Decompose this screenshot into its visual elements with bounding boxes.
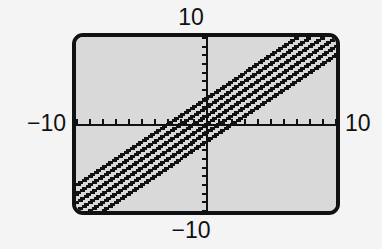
axis-label-right: 10 (345, 112, 382, 135)
plot-canvas (76, 37, 336, 211)
axis-label-left: −10 (14, 112, 66, 135)
calculator-screen (72, 33, 340, 215)
graph-figure: 10 −10 10 −10 (0, 0, 382, 249)
axis-label-top: 10 (0, 6, 382, 29)
axis-label-bottom: −10 (0, 219, 382, 242)
